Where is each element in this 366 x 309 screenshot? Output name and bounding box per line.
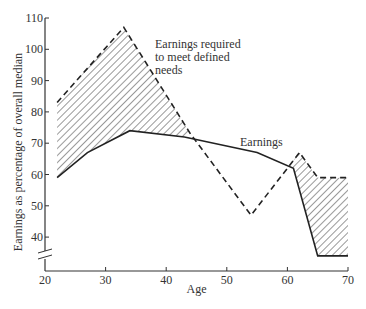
x-tick-label: 60 (281, 273, 293, 287)
y-axis-title: Earnings as percentage of overall median (11, 53, 25, 251)
y-tick-label: 80 (31, 105, 43, 119)
x-tick-label: 40 (160, 273, 172, 287)
required-annotation: Earnings required (155, 37, 241, 51)
y-tick-label: 100 (25, 42, 43, 56)
x-tick-label: 70 (342, 273, 354, 287)
required-annotation: needs (155, 63, 183, 77)
x-tick-label: 50 (221, 273, 233, 287)
chart: 405060708090100110203040506070 AgeEarnin… (0, 0, 366, 309)
x-tick-label: 30 (100, 273, 112, 287)
y-tick-label: 70 (31, 136, 43, 150)
y-tick-label: 40 (31, 230, 43, 244)
y-tick-label: 110 (25, 11, 43, 25)
earnings-annotation: Earnings (240, 135, 283, 149)
x-axis-title: Age (187, 282, 207, 296)
y-tick-label: 50 (31, 199, 43, 213)
x-tick-label: 20 (39, 273, 51, 287)
y-tick-label: 90 (31, 74, 43, 88)
required-annotation: to meet defined (155, 50, 230, 64)
y-tick-label: 60 (31, 168, 43, 182)
